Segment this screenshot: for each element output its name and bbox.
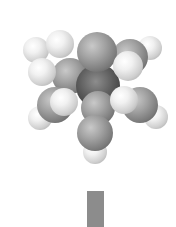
hydrogen-atom bbox=[50, 88, 78, 116]
hydrogen-atom bbox=[110, 86, 138, 114]
carbon-atom bbox=[77, 115, 113, 151]
gray-bar bbox=[87, 191, 104, 227]
hydrogen-atom bbox=[113, 51, 143, 81]
molecule-model bbox=[0, 0, 176, 180]
carbon-atom bbox=[77, 32, 117, 72]
hydrogen-atom bbox=[46, 30, 74, 58]
hydrogen-atom bbox=[28, 58, 56, 86]
